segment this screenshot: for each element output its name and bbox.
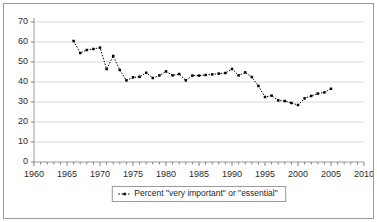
series-marker bbox=[119, 69, 122, 72]
line-chart: 010203040506070 196019651970197519801985… bbox=[4, 4, 373, 218]
series-marker bbox=[158, 74, 161, 77]
series-marker bbox=[317, 92, 320, 95]
x-tick-label: 2000 bbox=[288, 169, 308, 179]
y-tick-label: 50 bbox=[18, 56, 28, 66]
legend-label: Percent "very important" or "essential" bbox=[134, 188, 277, 198]
series-marker bbox=[257, 85, 260, 88]
x-tick-label: 2005 bbox=[321, 169, 341, 179]
x-tick-label: 1960 bbox=[24, 169, 44, 179]
series-marker bbox=[270, 94, 273, 97]
series-marker bbox=[237, 74, 240, 77]
chart-background bbox=[4, 4, 373, 218]
x-tick-label: 2010 bbox=[354, 169, 373, 179]
y-tick-label: 0 bbox=[23, 156, 28, 166]
series-marker bbox=[198, 74, 201, 77]
x-tick-label: 1985 bbox=[189, 169, 209, 179]
series-marker bbox=[231, 68, 234, 71]
series-marker bbox=[185, 79, 188, 82]
series-marker bbox=[224, 72, 227, 75]
y-tick-label: 70 bbox=[18, 16, 28, 26]
y-tick-label: 30 bbox=[18, 96, 28, 106]
series-marker bbox=[79, 52, 82, 55]
series-marker bbox=[92, 48, 95, 51]
series-marker bbox=[284, 100, 287, 103]
series-marker bbox=[264, 96, 267, 99]
x-tick-label: 1965 bbox=[57, 169, 77, 179]
series-marker bbox=[323, 91, 326, 94]
series-marker bbox=[171, 74, 174, 77]
series-marker bbox=[277, 99, 280, 102]
series-marker bbox=[145, 72, 148, 75]
series-marker bbox=[138, 76, 141, 79]
x-tick-label: 1990 bbox=[222, 169, 242, 179]
chart-frame: 010203040506070 196019651970197519801985… bbox=[3, 3, 374, 219]
series-marker bbox=[152, 77, 155, 80]
chart-legend: Percent "very important" or "essential" bbox=[112, 187, 285, 202]
y-tick-label: 20 bbox=[18, 116, 28, 126]
series-marker bbox=[165, 70, 168, 73]
series-marker bbox=[99, 46, 102, 49]
series-marker bbox=[251, 76, 254, 79]
screenshot-root: 010203040506070 196019651970197519801985… bbox=[0, 0, 377, 222]
series-marker bbox=[211, 73, 214, 76]
legend-marker-icon bbox=[123, 193, 126, 196]
x-tick-label: 1970 bbox=[90, 169, 110, 179]
y-tick-label: 40 bbox=[18, 76, 28, 86]
series-marker bbox=[218, 72, 221, 75]
series-marker bbox=[303, 97, 306, 100]
series-marker bbox=[125, 79, 128, 82]
x-tick-label: 1975 bbox=[123, 169, 143, 179]
y-tick-label: 60 bbox=[18, 36, 28, 46]
series-marker bbox=[191, 74, 194, 77]
x-tick-label: 1995 bbox=[255, 169, 275, 179]
x-axis-tick-labels: 1960196519701975198019851990199520002005… bbox=[24, 169, 373, 179]
series-marker bbox=[105, 68, 108, 71]
series-marker bbox=[86, 49, 89, 52]
series-marker bbox=[244, 71, 247, 74]
series-marker bbox=[310, 95, 313, 98]
series-marker bbox=[178, 73, 181, 76]
series-marker bbox=[112, 55, 115, 58]
series-marker bbox=[290, 102, 293, 105]
y-tick-label: 10 bbox=[18, 136, 28, 146]
chart-plot-area: 010203040506070 196019651970197519801985… bbox=[4, 4, 373, 218]
series-marker bbox=[72, 40, 75, 43]
x-tick-label: 1980 bbox=[156, 169, 176, 179]
series-marker bbox=[297, 104, 300, 107]
series-marker bbox=[204, 74, 207, 77]
series-marker bbox=[132, 76, 135, 79]
series-marker bbox=[330, 88, 333, 91]
